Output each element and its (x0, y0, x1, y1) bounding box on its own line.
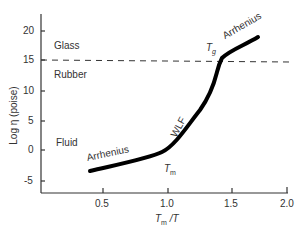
ytick-15: 15 (23, 54, 34, 65)
rubber-label: Rubber (54, 69, 87, 80)
chart-canvas (0, 0, 305, 231)
xtick-0.5: 0.5 (95, 198, 109, 209)
ytick-0: 0 (28, 144, 34, 155)
glass-transition-dashed-line (41, 60, 290, 62)
x-axis-label: Tm /T (155, 213, 179, 226)
tg-label: Tg (206, 42, 216, 55)
xtick-2.0: 2.0 (280, 198, 294, 209)
xtick-1.5: 1.5 (224, 198, 238, 209)
tm-label-sub: m (170, 169, 176, 176)
x-ticks (103, 187, 287, 193)
tg-label-sub: g (212, 48, 216, 55)
fluid-label: Fluid (56, 137, 78, 148)
glass-label: Glass (54, 40, 80, 51)
ytick-5: 5 (28, 115, 34, 126)
tm-label: Tm (164, 163, 176, 176)
xtick-1.0: 1.0 (160, 198, 174, 209)
ytick-20: 20 (23, 25, 34, 36)
ytick-10: 10 (23, 85, 34, 96)
y-axis-label: Log η (poise) (8, 86, 19, 144)
x-axis-label-rest: /T (167, 213, 179, 224)
ytick-neg5: -5 (24, 175, 33, 186)
